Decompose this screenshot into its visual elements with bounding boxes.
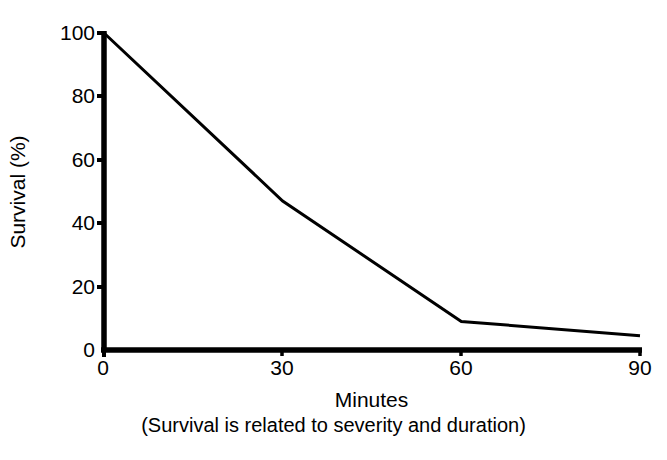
chart-caption: (Survival is related to severity and dur…: [0, 414, 667, 437]
survival-data-line: [104, 33, 640, 336]
x-axis-title: Minutes: [103, 388, 640, 412]
survival-chart-figure: Survival (%) 100 80 60 40 20 0 0 30 60 9…: [0, 0, 667, 460]
